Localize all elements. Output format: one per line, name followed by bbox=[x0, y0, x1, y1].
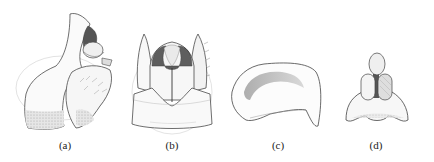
panel-label-a: (a) bbox=[59, 139, 71, 151]
panel-d-drawing bbox=[346, 53, 408, 121]
panel-b-drawing bbox=[132, 34, 212, 134]
panel-label-d: (d) bbox=[370, 139, 383, 151]
panel-c-drawing bbox=[232, 63, 321, 126]
panel-label-b: (b) bbox=[166, 139, 179, 151]
panel-a-drawing bbox=[16, 13, 112, 129]
panel-label-c: (c) bbox=[272, 139, 284, 151]
figure: (a) (b) (c) (d) bbox=[0, 0, 434, 162]
